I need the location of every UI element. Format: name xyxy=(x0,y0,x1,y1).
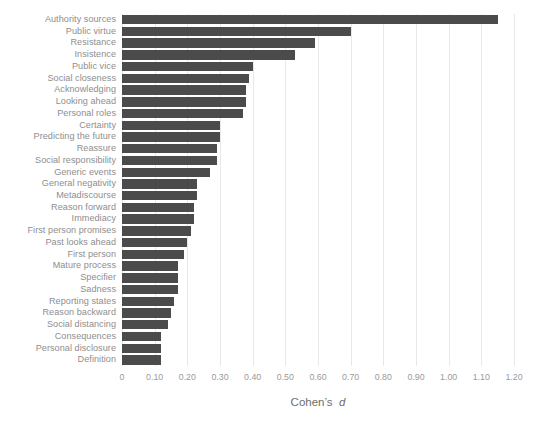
bar-row[interactable] xyxy=(122,331,514,343)
bar[interactable] xyxy=(122,50,295,59)
category-label: Personal disclosure xyxy=(0,343,116,355)
bar-row[interactable] xyxy=(122,284,514,296)
x-axis-title: Cohen’s d xyxy=(122,396,514,408)
category-label: Social closeness xyxy=(0,73,116,85)
category-label: Public vice xyxy=(0,61,116,73)
category-label: Resistance xyxy=(0,37,116,49)
bar[interactable] xyxy=(122,261,178,270)
category-label: Reason backward xyxy=(0,307,116,319)
bar[interactable] xyxy=(122,144,217,153)
bar-row[interactable] xyxy=(122,26,514,38)
cohens-d-bar-chart: Authority sourcesPublic virtueResistance… xyxy=(0,0,534,443)
bar-row[interactable] xyxy=(122,249,514,261)
x-tick-label: 0.80 xyxy=(375,372,392,382)
bar[interactable] xyxy=(122,74,249,83)
category-label: Personal roles xyxy=(0,108,116,120)
x-axis-ticks: 00.100.200.300.400.500.600.700.800.901.0… xyxy=(122,372,514,388)
category-label: Social responsibility xyxy=(0,155,116,167)
bar-row[interactable] xyxy=(122,237,514,249)
category-label: Generic events xyxy=(0,167,116,179)
bar[interactable] xyxy=(122,38,315,47)
bar-row[interactable] xyxy=(122,225,514,237)
bar[interactable] xyxy=(122,168,210,177)
bar-row[interactable] xyxy=(122,131,514,143)
bar-row[interactable] xyxy=(122,213,514,225)
x-tick-label: 0.90 xyxy=(407,372,424,382)
bar[interactable] xyxy=(122,62,253,71)
x-tick-label: 0.30 xyxy=(211,372,228,382)
bar[interactable] xyxy=(122,297,174,306)
x-tick-label: 0.70 xyxy=(342,372,359,382)
bar-row[interactable] xyxy=(122,343,514,355)
x-tick-label: 0.60 xyxy=(309,372,326,382)
category-label: Predicting the future xyxy=(0,131,116,143)
category-label: Acknowledging xyxy=(0,84,116,96)
bar[interactable] xyxy=(122,332,161,341)
bar[interactable] xyxy=(122,109,243,118)
bar-row[interactable] xyxy=(122,319,514,331)
category-label: Definition xyxy=(0,354,116,366)
bar[interactable] xyxy=(122,308,171,317)
bar[interactable] xyxy=(122,156,217,165)
x-tick-label: 0.40 xyxy=(244,372,261,382)
x-tick-label: 0 xyxy=(120,372,125,382)
bar-row[interactable] xyxy=(122,61,514,73)
category-label: Insistence xyxy=(0,49,116,61)
bar-row[interactable] xyxy=(122,143,514,155)
category-label: Looking ahead xyxy=(0,96,116,108)
category-label: Sadness xyxy=(0,284,116,296)
bar-row[interactable] xyxy=(122,296,514,308)
plot-area xyxy=(122,14,514,366)
category-axis-labels: Authority sourcesPublic virtueResistance… xyxy=(0,14,116,366)
bar[interactable] xyxy=(122,121,220,130)
bar[interactable] xyxy=(122,15,498,24)
bar-row[interactable] xyxy=(122,190,514,202)
bar-row[interactable] xyxy=(122,73,514,85)
bar-row[interactable] xyxy=(122,120,514,132)
bar-row[interactable] xyxy=(122,96,514,108)
bar[interactable] xyxy=(122,97,246,106)
bar[interactable] xyxy=(122,85,246,94)
bar-row[interactable] xyxy=(122,178,514,190)
bar-row[interactable] xyxy=(122,354,514,366)
bar-row[interactable] xyxy=(122,49,514,61)
bar-row[interactable] xyxy=(122,167,514,179)
category-label: General negativity xyxy=(0,178,116,190)
category-label: Past looks ahead xyxy=(0,237,116,249)
bar[interactable] xyxy=(122,132,220,141)
bar-row[interactable] xyxy=(122,272,514,284)
x-tick-label: 0.10 xyxy=(146,372,163,382)
bar[interactable] xyxy=(122,226,191,235)
bar-row[interactable] xyxy=(122,84,514,96)
bar[interactable] xyxy=(122,273,178,282)
bar-row[interactable] xyxy=(122,307,514,319)
bar[interactable] xyxy=(122,27,351,36)
category-label: Specifier xyxy=(0,272,116,284)
bar[interactable] xyxy=(122,285,178,294)
bar[interactable] xyxy=(122,320,168,329)
bar[interactable] xyxy=(122,355,161,364)
bar[interactable] xyxy=(122,203,194,212)
bar[interactable] xyxy=(122,191,197,200)
category-label: Mature process xyxy=(0,260,116,272)
bar-row[interactable] xyxy=(122,37,514,49)
x-tick-label: 0.20 xyxy=(179,372,196,382)
bar-row[interactable] xyxy=(122,260,514,272)
bar-row[interactable] xyxy=(122,155,514,167)
bar[interactable] xyxy=(122,238,187,247)
bar[interactable] xyxy=(122,214,194,223)
bar-row[interactable] xyxy=(122,108,514,120)
gridline xyxy=(514,14,515,366)
category-label: First person xyxy=(0,249,116,261)
bar-row[interactable] xyxy=(122,14,514,26)
category-label: Reporting states xyxy=(0,296,116,308)
category-label: Consequences xyxy=(0,331,116,343)
category-label: Authority sources xyxy=(0,14,116,26)
bar-row[interactable] xyxy=(122,202,514,214)
category-label: Metadiscourse xyxy=(0,190,116,202)
category-label: Immediacy xyxy=(0,213,116,225)
bar[interactable] xyxy=(122,344,161,353)
bar[interactable] xyxy=(122,250,184,259)
bar-series xyxy=(122,14,514,366)
bar[interactable] xyxy=(122,179,197,188)
